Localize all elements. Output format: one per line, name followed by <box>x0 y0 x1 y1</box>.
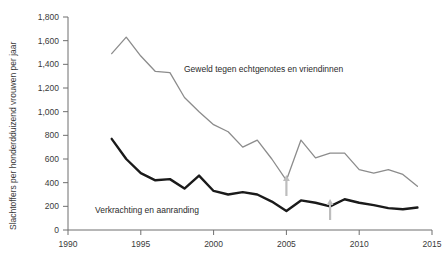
x-tick-label: 2015 <box>423 239 442 249</box>
x-tick-label: 2010 <box>350 239 369 249</box>
series-label-upper: Geweld tegen echtgenotes en vriendinnen <box>184 64 344 74</box>
x-tick-label: 1995 <box>131 239 150 249</box>
y-tick-label: 200 <box>45 201 59 211</box>
y-tick-label: 1,200 <box>38 83 60 93</box>
y-tick-label: 1,400 <box>38 59 60 69</box>
y-tick-label: 600 <box>45 154 59 164</box>
annotation-layer <box>283 175 333 220</box>
y-axis-ticks: 02004006008001,0001,2001,4001,6001,800 <box>38 12 68 235</box>
arrow-marker-2008 <box>327 199 334 220</box>
y-tick-label: 1,000 <box>38 107 60 117</box>
arrow-marker-2005 <box>283 175 290 196</box>
x-axis-ticks: 199019952000200520102015 <box>59 230 442 249</box>
y-tick-label: 1,800 <box>38 12 60 22</box>
y-tick-label: 0 <box>54 225 59 235</box>
line-chart: Slachtoffers per honderdduizend vrouwen … <box>0 0 446 264</box>
x-tick-label: 2005 <box>277 239 296 249</box>
series-label-lower: Verkrachting en aanranding <box>95 205 199 215</box>
y-tick-label: 800 <box>45 130 59 140</box>
y-tick-label: 400 <box>45 178 59 188</box>
x-tick-label: 1990 <box>59 239 78 249</box>
y-axis-title-group: Slachtoffers per honderdduizend vrouwen … <box>8 41 18 230</box>
arrow-head-icon <box>327 199 334 205</box>
y-tick-label: 1,600 <box>38 36 60 46</box>
x-tick-label: 2000 <box>204 239 223 249</box>
series-line-upper <box>112 37 418 186</box>
chart-container: Slachtoffers per honderdduizend vrouwen … <box>0 0 446 264</box>
y-axis-title: Slachtoffers per honderdduizend vrouwen … <box>8 41 18 230</box>
